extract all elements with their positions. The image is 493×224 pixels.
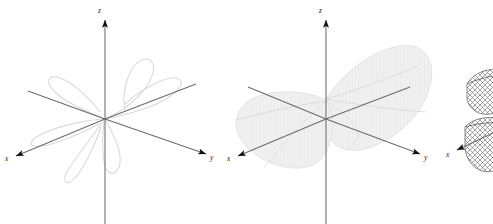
panel-shaded-surface: z y x xyxy=(220,0,446,224)
panel-2-canvas: z y x xyxy=(220,0,446,224)
curve-group xyxy=(31,59,181,183)
lobe-right xyxy=(324,46,432,151)
panel-mesh-cropped: x xyxy=(440,0,493,224)
y-axis-label: y xyxy=(423,153,428,162)
x-axis-label: x xyxy=(445,150,450,159)
axis-group xyxy=(16,20,206,224)
x-axis-negative xyxy=(28,91,105,119)
z-axis-label: z xyxy=(97,6,101,15)
z-axis-label: z xyxy=(318,6,322,15)
lobe-left xyxy=(236,92,332,168)
three-panel-3d-figure: z y x xyxy=(0,0,493,224)
panel-1-canvas: z y x xyxy=(0,0,224,224)
panel-3-canvas: x xyxy=(440,0,493,224)
panel-curves: z y x xyxy=(0,0,224,224)
x-axis-label: x xyxy=(226,154,231,163)
mesh-lobe-upper xyxy=(467,70,493,115)
y-axis-negative xyxy=(105,84,196,119)
y-axis-label: y xyxy=(209,153,214,162)
x-axis-label: x xyxy=(4,154,9,163)
y-axis xyxy=(105,119,206,154)
